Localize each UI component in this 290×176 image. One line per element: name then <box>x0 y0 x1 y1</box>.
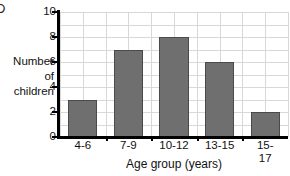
grid-line-vertical <box>288 12 289 137</box>
bar-chart-figure: D Number of children 0246810 4-67-910-12… <box>0 0 290 176</box>
y-tick-mark <box>52 36 57 38</box>
corner-crop-letter: D <box>0 2 5 16</box>
plot-area <box>60 12 288 137</box>
y-tick-mark <box>52 11 57 13</box>
bar <box>159 37 188 137</box>
grid-line-vertical <box>60 12 61 137</box>
x-tick-label: 4-6 <box>74 139 91 152</box>
y-tick-mark <box>52 86 57 88</box>
grid-line-vertical <box>242 12 243 137</box>
y-axis-line <box>57 10 60 139</box>
x-tick-label: 10-12 <box>159 139 188 152</box>
x-axis-tick-labels: 4-67-910-1213-1515-17 <box>60 139 288 155</box>
grid-line-vertical <box>197 12 198 137</box>
y-axis-tick-labels: 0246810 <box>34 0 56 176</box>
bar <box>205 62 234 137</box>
x-tick-label: 13-15 <box>205 139 234 152</box>
bar <box>114 50 143 138</box>
y-tick-mark <box>52 61 57 63</box>
x-axis-title: Age group (years) <box>60 157 288 171</box>
x-tick-label: 7-9 <box>120 139 137 152</box>
grid-line-vertical <box>151 12 152 137</box>
bar <box>68 100 97 138</box>
grid-line-vertical <box>106 12 107 137</box>
bar <box>251 112 280 137</box>
y-tick-mark <box>52 111 57 113</box>
